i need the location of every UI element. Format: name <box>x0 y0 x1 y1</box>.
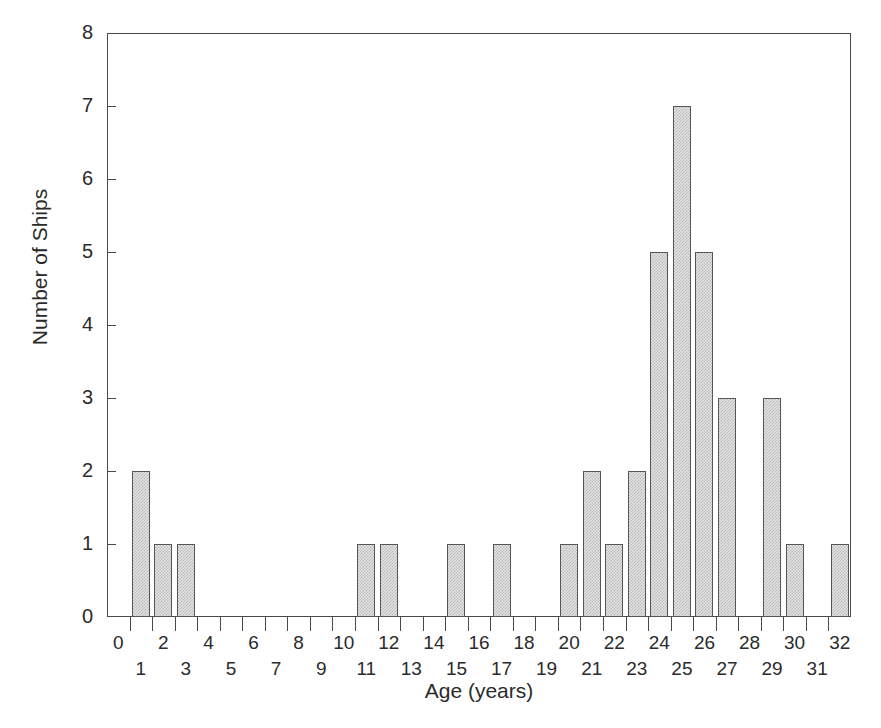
x-tick-label: 26 <box>681 633 727 652</box>
y-tick-label: 8 <box>53 22 93 42</box>
x-tick-mark <box>738 617 739 631</box>
bar <box>154 544 172 617</box>
y-tick-label: 4 <box>53 314 93 334</box>
x-tick-mark <box>445 617 446 631</box>
x-tick-label: 6 <box>231 633 277 652</box>
x-tick-mark <box>242 617 243 631</box>
y-tick-mark <box>107 325 116 326</box>
x-tick-label: 23 <box>614 659 660 678</box>
x-tick-mark <box>626 617 627 631</box>
x-tick-label: 13 <box>388 659 434 678</box>
x-tick-mark <box>220 617 221 631</box>
x-tick-mark <box>423 617 424 631</box>
x-tick-mark <box>490 617 491 631</box>
x-tick-label: 22 <box>591 633 637 652</box>
bar <box>831 544 849 617</box>
y-tick-label: 5 <box>53 241 93 261</box>
y-tick-mark <box>107 106 116 107</box>
x-tick-mark <box>197 617 198 631</box>
x-tick-mark <box>558 617 559 631</box>
bar <box>628 471 646 617</box>
x-axis: 0123456789101112131415161718192021222324… <box>107 617 851 677</box>
bars-layer <box>107 33 851 617</box>
x-tick-label: 17 <box>479 659 525 678</box>
x-tick-label: 28 <box>727 633 773 652</box>
x-tick-label: 19 <box>524 659 570 678</box>
x-tick-label: 16 <box>456 633 502 652</box>
x-tick-mark <box>175 617 176 631</box>
x-tick-label: 18 <box>501 633 547 652</box>
x-tick-mark <box>671 617 672 631</box>
x-tick-label: 24 <box>636 633 682 652</box>
bar <box>695 252 713 617</box>
bar <box>786 544 804 617</box>
bar <box>132 471 150 617</box>
x-tick-mark <box>130 617 131 631</box>
x-tick-label: 3 <box>163 659 209 678</box>
bar <box>560 544 578 617</box>
bar <box>493 544 511 617</box>
x-tick-label: 29 <box>749 659 795 678</box>
x-tick-mark <box>287 617 288 631</box>
x-tick-label: 14 <box>411 633 457 652</box>
x-tick-label: 21 <box>569 659 615 678</box>
x-axis-title: Age (years) <box>107 679 851 703</box>
bar <box>447 544 465 617</box>
y-tick-mark <box>107 179 116 180</box>
x-tick-mark <box>603 617 604 631</box>
x-tick-mark <box>152 617 153 631</box>
x-tick-mark <box>468 617 469 631</box>
x-tick-label: 1 <box>118 659 164 678</box>
bar <box>177 544 195 617</box>
x-tick-label: 25 <box>659 659 705 678</box>
bar <box>380 544 398 617</box>
x-tick-label: 31 <box>794 659 840 678</box>
x-tick-mark <box>355 617 356 631</box>
x-tick-label: 5 <box>208 659 254 678</box>
y-tick-label: 2 <box>53 460 93 480</box>
y-tick-mark <box>107 252 116 253</box>
y-tick-label: 7 <box>53 95 93 115</box>
x-tick-mark <box>783 617 784 631</box>
bar <box>357 544 375 617</box>
x-tick-mark <box>310 617 311 631</box>
x-tick-mark <box>400 617 401 631</box>
y-tick-mark <box>107 471 116 472</box>
x-tick-label: 12 <box>366 633 412 652</box>
x-tick-mark <box>716 617 717 631</box>
x-tick-label: 8 <box>276 633 322 652</box>
x-tick-mark <box>806 617 807 631</box>
x-tick-label: 0 <box>95 633 141 652</box>
y-axis-title: Number of Ships <box>28 137 52 397</box>
x-tick-mark <box>535 617 536 631</box>
x-tick-mark <box>648 617 649 631</box>
x-tick-label: 11 <box>343 659 389 678</box>
x-tick-label: 2 <box>140 633 186 652</box>
x-tick-label: 4 <box>185 633 231 652</box>
y-tick-mark <box>107 544 116 545</box>
y-tick-label: 3 <box>53 387 93 407</box>
x-tick-mark <box>828 617 829 631</box>
y-tick-label: 6 <box>53 168 93 188</box>
x-tick-label: 9 <box>298 659 344 678</box>
x-tick-mark <box>513 617 514 631</box>
bar <box>763 398 781 617</box>
x-tick-mark <box>580 617 581 631</box>
x-tick-mark <box>378 617 379 631</box>
x-tick-mark <box>332 617 333 631</box>
bar <box>650 252 668 617</box>
x-tick-label: 27 <box>704 659 750 678</box>
x-tick-label: 30 <box>772 633 818 652</box>
y-tick-mark <box>107 398 116 399</box>
histogram-figure: 012345678 Number of Ships 01234567891011… <box>0 0 881 728</box>
x-tick-label: 15 <box>433 659 479 678</box>
x-tick-label: 10 <box>321 633 367 652</box>
bar <box>605 544 623 617</box>
bar <box>583 471 601 617</box>
x-tick-label: 20 <box>546 633 592 652</box>
x-tick-mark <box>693 617 694 631</box>
x-tick-mark <box>265 617 266 631</box>
bar <box>673 106 691 617</box>
bar <box>718 398 736 617</box>
y-tick-label: 1 <box>53 533 93 553</box>
